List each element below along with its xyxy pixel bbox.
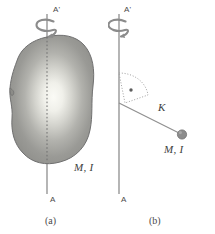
- body-mass-inertia-label: M, I: [74, 161, 94, 173]
- axis-bottom-label-b: A: [121, 196, 127, 204]
- dotted-guide-region: [119, 73, 148, 103]
- point-mass-inertia-label: M, I: [164, 143, 184, 155]
- radius-of-gyration-line: [119, 103, 181, 134]
- rotation-curl-arrow: [37, 20, 56, 37]
- point-mass-highlight: [179, 131, 182, 134]
- rotation-curl-arrow: [109, 20, 128, 37]
- axis-bottom-label-a: A: [50, 196, 56, 204]
- radius-of-gyration-label: K: [158, 101, 166, 113]
- panel-b-caption: (b): [149, 215, 161, 226]
- axis-top-label-b: A': [124, 6, 131, 14]
- panel-a-caption: (a): [45, 215, 56, 226]
- axis-top-label-a: A': [53, 6, 60, 14]
- panel-a-rigid-body: A' A M, I (a): [0, 0, 108, 234]
- point-mass-marker: [177, 130, 186, 139]
- rigid-body-shape: [10, 35, 94, 163]
- perpendicular-point-dot: [129, 88, 132, 91]
- panel-b-point-mass: A' A K M, I (b): [108, 0, 215, 234]
- figure-root: A' A M, I (a) A' A K M, I (b): [0, 0, 215, 234]
